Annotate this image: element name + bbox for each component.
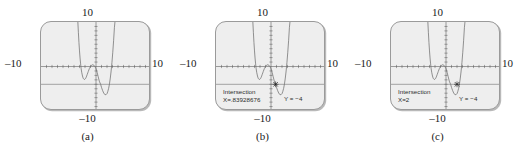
intersection-label-b: Intersection bbox=[223, 88, 261, 96]
panel-caption-c: (c) bbox=[350, 130, 525, 142]
figure-panel-a: 10 –10 –10 10 (a) bbox=[0, 0, 175, 160]
axis-label-top-b: 10 bbox=[257, 7, 268, 18]
axis-label-right-c: 10 bbox=[502, 58, 513, 69]
axis-label-top-c: 10 bbox=[432, 7, 443, 18]
intersection-readout-b: Intersection X=.83928676 bbox=[223, 88, 261, 104]
graph-plot-a bbox=[41, 22, 150, 110]
function-curve bbox=[253, 22, 290, 95]
intersection-readout-c: Intersection X=2 bbox=[398, 88, 431, 104]
axis-label-bottom-b: –10 bbox=[254, 113, 271, 124]
function-curve bbox=[428, 22, 465, 95]
axis-label-right-b: 10 bbox=[327, 58, 338, 69]
screen-bezel-a bbox=[40, 21, 150, 110]
intersection-y-value-c: Y = −4 bbox=[459, 95, 477, 103]
panel-caption-a: (a) bbox=[0, 130, 175, 142]
panel-caption-b: (b) bbox=[175, 130, 350, 142]
intersection-x-value-c: X=2 bbox=[398, 96, 431, 104]
figure-panel-b: 10 –10 –10 10 Intersection X=.83928676 Y… bbox=[175, 0, 350, 160]
figure-panel-c: 10 –10 –10 10 Intersection X=2 Y = −4 (c… bbox=[350, 0, 525, 160]
trace-cursor bbox=[273, 81, 279, 87]
intersection-x-value-b: X=.83928676 bbox=[223, 96, 261, 104]
trace-cursor bbox=[454, 81, 460, 87]
calculator-screen-a bbox=[40, 21, 150, 110]
intersection-y-value-b: Y = −4 bbox=[284, 95, 302, 103]
axis-label-top-a: 10 bbox=[82, 7, 93, 18]
axis-label-bottom-a: –10 bbox=[79, 113, 96, 124]
graph-canvas-a bbox=[41, 22, 150, 110]
figure-panel-row: 10 –10 –10 10 (a) 10 –10 –10 10 Inter bbox=[0, 0, 525, 160]
axis-label-bottom-c: –10 bbox=[429, 113, 446, 124]
function-curve bbox=[78, 22, 115, 95]
axis-label-right-a: 10 bbox=[152, 58, 163, 69]
intersection-label-c: Intersection bbox=[398, 88, 431, 96]
axis-label-left-b: –10 bbox=[180, 58, 197, 69]
axis-label-left-a: –10 bbox=[5, 58, 22, 69]
axis-label-left-c: –10 bbox=[355, 58, 372, 69]
